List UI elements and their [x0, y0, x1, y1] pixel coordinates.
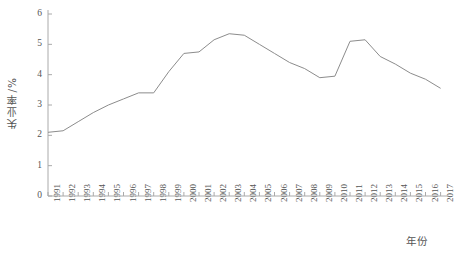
chart-canvas	[0, 0, 455, 257]
unemployment-rate-line	[48, 34, 441, 133]
tick-marks-group	[48, 14, 441, 196]
unemployment-rate-line-chart: 失业率/% 年份 0123456 19911992199319941995199…	[0, 0, 455, 257]
